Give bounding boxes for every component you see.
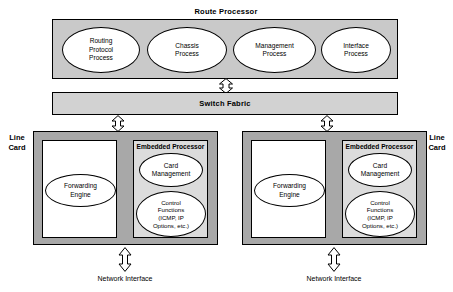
ellipse-line: Options, etc.) [362, 222, 398, 230]
ellipse-line: Functions [153, 206, 189, 214]
network-interface-right-double-arrow [325, 247, 343, 272]
ellipse-line: Options, etc.) [153, 222, 189, 230]
sf-linecard-right-double-arrow [318, 115, 336, 132]
embedded-processor-title-left: Embedded Processor [134, 143, 207, 150]
management-process-ellipse: Management Process [233, 27, 316, 73]
line-card-label-line: Line [2, 133, 32, 143]
network-interface-label-right: Network Interface [284, 274, 384, 283]
ellipse-line: Management [152, 170, 191, 179]
ellipse-line: Protocol [89, 46, 113, 55]
route-processor-box: Routing Protocol Process Chassis Process… [52, 19, 398, 79]
ellipse-line: (ICMP, IP [153, 214, 189, 222]
ellipse-line: Control [362, 199, 398, 207]
forwarding-engine-box-right: Forwarding Engine [251, 140, 326, 238]
ellipse-line: Chassis [175, 42, 199, 51]
forwarding-engine-ellipse-right: Forwarding Engine [254, 174, 325, 207]
card-management-ellipse-left: Card Management [139, 153, 203, 187]
ellipse-line: Routing [89, 37, 113, 46]
interface-process-ellipse: Interface Process [321, 27, 391, 73]
routing-protocol-process-ellipse: Routing Protocol Process [62, 27, 140, 73]
ellipse-line: Engine [273, 191, 306, 200]
ellipse-line: Forwarding [64, 182, 97, 191]
line-card-left-side-label: Line Card [2, 133, 32, 152]
ellipse-line: Process [255, 50, 294, 59]
ellipse-line: Card [361, 162, 400, 171]
ellipse-line: Engine [64, 191, 97, 200]
card-management-ellipse-right: Card Management [348, 153, 412, 187]
line-card-label-line: Card [2, 143, 32, 153]
embedded-processor-box-right: Embedded Processor Card Management Contr… [342, 140, 417, 238]
ellipse-line: Process [89, 54, 113, 63]
ellipse-line: Process [175, 50, 199, 59]
control-functions-ellipse-left: Control Functions (ICMP, IP Options, etc… [136, 191, 206, 237]
forwarding-engine-box-left: Forwarding Engine [42, 140, 117, 238]
ellipse-line: Process [343, 50, 369, 59]
network-interface-left-double-arrow [116, 247, 134, 272]
control-functions-ellipse-right: Control Functions (ICMP, IP Options, etc… [345, 191, 415, 237]
route-processor-title: Route Processor [176, 7, 276, 16]
forwarding-engine-ellipse-left: Forwarding Engine [45, 174, 116, 207]
ellipse-line: Functions [362, 206, 398, 214]
ellipse-line: Management [255, 42, 294, 51]
embedded-processor-box-left: Embedded Processor Card Management Contr… [133, 140, 208, 238]
network-interface-label-left: Network Interface [75, 274, 175, 283]
line-card-right-box: Forwarding Engine Embedded Processor Car… [242, 131, 427, 245]
ellipse-line: Interface [343, 42, 369, 51]
sf-linecard-left-double-arrow [109, 115, 127, 132]
chassis-process-ellipse: Chassis Process [147, 27, 227, 73]
ellipse-line: Management [361, 170, 400, 179]
line-card-left-box: Forwarding Engine Embedded Processor Car… [33, 131, 218, 245]
embedded-processor-title-right: Embedded Processor [343, 143, 416, 150]
switch-fabric-label: Switch Fabric [199, 99, 250, 108]
ellipse-line: Control [153, 199, 189, 207]
ellipse-line: (ICMP, IP [362, 214, 398, 222]
diagram-canvas: Route Processor Routing Protocol Process… [0, 0, 453, 292]
switch-fabric-box: Switch Fabric [52, 92, 398, 115]
ellipse-line: Forwarding [273, 182, 306, 191]
ellipse-line: Card [152, 162, 191, 171]
